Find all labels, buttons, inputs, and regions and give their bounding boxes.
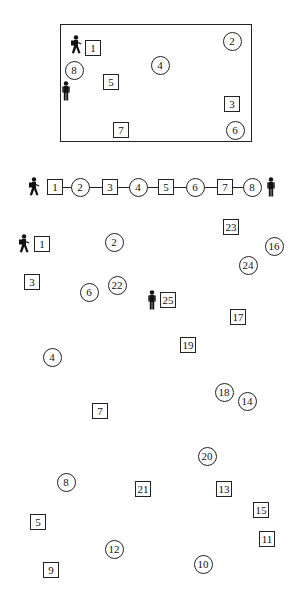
walking-person-icon <box>28 177 40 197</box>
circle-node-4: 4 <box>43 348 62 367</box>
square-node-7: 7 <box>92 403 108 419</box>
square-node-17: 17 <box>230 309 246 325</box>
square-node-13: 13 <box>216 481 232 497</box>
circle-node-2: 2 <box>105 233 124 252</box>
square-node-9: 9 <box>43 562 59 578</box>
square-node-1: 1 <box>34 236 50 252</box>
square-node-1: 1 <box>47 179 63 195</box>
square-node-23: 23 <box>223 219 239 235</box>
square-node-25: 25 <box>160 292 176 308</box>
square-node-7: 7 <box>113 122 129 138</box>
circle-node-4: 4 <box>129 178 148 197</box>
circle-node-10: 10 <box>194 555 213 574</box>
circle-node-20: 20 <box>198 447 217 466</box>
square-node-19: 19 <box>180 337 196 353</box>
circle-node-14: 14 <box>238 392 257 411</box>
circle-node-4: 4 <box>151 56 170 75</box>
square-node-5: 5 <box>103 74 119 90</box>
circle-node-16: 16 <box>265 237 284 256</box>
walking-person-icon <box>18 234 30 254</box>
square-node-3: 3 <box>102 179 118 195</box>
square-node-5: 5 <box>158 179 174 195</box>
square-node-3: 3 <box>24 274 40 290</box>
circle-node-8: 8 <box>57 473 76 492</box>
standing-person-icon <box>146 290 158 310</box>
circle-node-22: 22 <box>108 276 127 295</box>
circle-node-12: 12 <box>105 540 124 559</box>
walking-person-icon <box>70 35 82 55</box>
circle-node-2: 2 <box>223 32 242 51</box>
circle-node-18: 18 <box>215 383 234 402</box>
circle-node-24: 24 <box>239 256 258 275</box>
square-node-1: 1 <box>85 40 101 56</box>
square-node-21: 21 <box>135 481 151 497</box>
standing-person-icon <box>60 81 72 101</box>
circle-node-6: 6 <box>80 283 99 302</box>
circle-node-6: 6 <box>226 121 245 140</box>
circle-node-8: 8 <box>65 61 84 80</box>
circle-node-8: 8 <box>243 178 262 197</box>
circle-node-6: 6 <box>186 178 205 197</box>
circle-node-2: 2 <box>71 178 90 197</box>
standing-person-icon <box>265 177 277 197</box>
square-node-11: 11 <box>259 531 275 547</box>
square-node-7: 7 <box>217 179 233 195</box>
square-node-15: 15 <box>253 502 269 518</box>
square-node-5: 5 <box>30 514 46 530</box>
square-node-3: 3 <box>224 96 240 112</box>
